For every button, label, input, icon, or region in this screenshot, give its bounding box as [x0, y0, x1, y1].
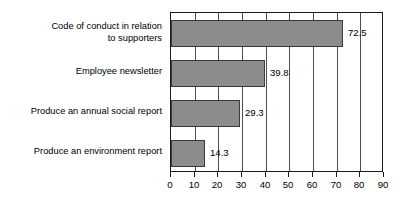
bar-value-label: 14.3: [210, 148, 229, 158]
x-tick-0: [170, 172, 171, 177]
x-axis: 0102030405060708090: [170, 172, 383, 204]
x-tick-label: 20: [212, 179, 223, 190]
x-tick-70: [336, 172, 337, 177]
x-tick-60: [312, 172, 313, 177]
category-label: Code of conduct in relation to supporter…: [51, 21, 162, 44]
bar: [171, 20, 343, 47]
x-tick-50: [288, 172, 289, 177]
bar: [171, 140, 205, 167]
x-tick-label: 60: [307, 179, 318, 190]
plot-area: 72.539.829.314.3: [170, 12, 383, 172]
bar-value-label: 72.5: [348, 28, 367, 38]
x-tick-90: [383, 172, 384, 177]
category-label: Produce an environment report: [34, 146, 162, 158]
x-tick-label: 80: [354, 179, 365, 190]
bar-value-label: 39.8: [270, 68, 289, 78]
category-axis-labels: Code of conduct in relation to supporter…: [0, 12, 166, 172]
x-tick-20: [217, 172, 218, 177]
x-tick-label: 70: [331, 179, 342, 190]
x-tick-80: [359, 172, 360, 177]
bar: [171, 100, 240, 127]
x-tick-40: [265, 172, 266, 177]
bar-value-label: 29.3: [245, 108, 264, 118]
x-tick-label: 50: [283, 179, 294, 190]
x-tick-label: 40: [260, 179, 271, 190]
category-label: Employee newsletter: [76, 66, 162, 78]
x-tick-10: [194, 172, 195, 177]
bar-chart: Code of conduct in relation to supporter…: [0, 0, 410, 204]
bar: [171, 60, 265, 87]
category-label: Produce an annual social report: [31, 106, 162, 118]
x-tick-label: 10: [189, 179, 200, 190]
x-tick-30: [241, 172, 242, 177]
x-tick-label: 30: [236, 179, 247, 190]
x-tick-label: 90: [378, 179, 389, 190]
x-tick-label: 0: [167, 179, 172, 190]
